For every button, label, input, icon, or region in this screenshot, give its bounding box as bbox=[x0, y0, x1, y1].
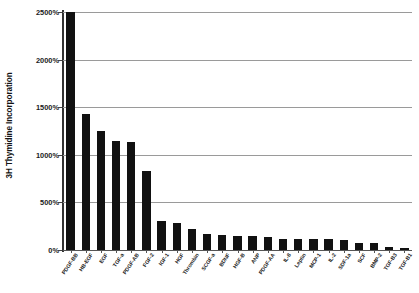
bar-slot bbox=[154, 12, 169, 250]
x-axis-tick-mark bbox=[101, 250, 102, 253]
bar bbox=[324, 239, 332, 250]
y-axis-tick-labels: 0%500%1000%1500%2000%2500% bbox=[16, 0, 62, 293]
bar-slot bbox=[230, 12, 245, 250]
bar-slot bbox=[382, 12, 397, 250]
bar-slot bbox=[215, 12, 230, 250]
bar bbox=[355, 243, 363, 250]
bar-slot bbox=[397, 12, 412, 250]
x-axis-tick-mark bbox=[86, 250, 87, 253]
bar bbox=[142, 171, 150, 250]
x-axis-tick-mark bbox=[298, 250, 299, 253]
x-axis-tick-mark bbox=[192, 250, 193, 253]
bar-slot bbox=[366, 12, 381, 250]
x-axis-tick-mark bbox=[71, 250, 72, 253]
bar-slot bbox=[351, 12, 366, 250]
bar-slot bbox=[78, 12, 93, 250]
bar bbox=[294, 239, 302, 250]
y-axis-tick-mark bbox=[58, 250, 62, 251]
x-axis-tick-mark bbox=[268, 250, 269, 253]
bar bbox=[233, 236, 241, 250]
bar bbox=[264, 237, 272, 250]
x-axis-tick-label: ANP bbox=[250, 252, 261, 265]
x-axis-tick-mark bbox=[344, 250, 345, 253]
y-axis-tick-label: 1000% bbox=[36, 150, 59, 159]
x-axis-tick-mark bbox=[162, 250, 163, 253]
x-axis-tick-label: SCF bbox=[356, 252, 367, 264]
bar bbox=[173, 223, 181, 250]
bar bbox=[82, 114, 90, 250]
x-axis-tick-mark bbox=[253, 250, 254, 253]
bar-slot bbox=[63, 12, 78, 250]
bar bbox=[66, 12, 74, 250]
x-axis-tick-label: HB-EGF bbox=[78, 252, 94, 272]
y-axis-tick-label: 1500% bbox=[36, 103, 59, 112]
x-axis-tick-label: SDF-1a bbox=[337, 252, 352, 271]
bar bbox=[203, 234, 211, 250]
x-axis-tick-label: IL-2 bbox=[327, 252, 337, 263]
bar-slot bbox=[336, 12, 351, 250]
x-axis-tick-mark bbox=[359, 250, 360, 253]
bar-slot bbox=[200, 12, 215, 250]
x-axis-tick-mark bbox=[222, 250, 223, 253]
bar bbox=[188, 229, 196, 250]
bar-slot bbox=[260, 12, 275, 250]
bar bbox=[112, 141, 120, 250]
bar bbox=[370, 243, 378, 250]
x-axis-tick-label: FGF-2 bbox=[141, 252, 155, 268]
x-axis-tick-mark bbox=[146, 250, 147, 253]
x-axis-tick-mark bbox=[389, 250, 390, 253]
plot-area bbox=[63, 12, 412, 250]
x-axis-tick-label: EGF bbox=[98, 252, 109, 264]
bar bbox=[157, 221, 165, 250]
y-axis-tick-mark bbox=[58, 107, 62, 108]
x-axis-tick-mark bbox=[283, 250, 284, 253]
x-axis-tick-mark bbox=[374, 250, 375, 253]
x-axis-tick-label: BDNF bbox=[218, 252, 231, 268]
bar bbox=[309, 239, 317, 250]
bar bbox=[340, 240, 348, 250]
y-axis-tick-mark bbox=[58, 202, 62, 203]
y-axis-title-text: 3H Thymidine Incorporation bbox=[5, 72, 14, 178]
x-axis-tick-mark bbox=[116, 250, 117, 253]
y-axis-tick-label: 2000% bbox=[36, 55, 59, 64]
x-axis-tick-label: TGF-B3 bbox=[382, 252, 398, 271]
bar-slot bbox=[275, 12, 290, 250]
x-axis-tick-label: Leptin bbox=[293, 252, 307, 269]
bar-slot bbox=[306, 12, 321, 250]
bar-slot bbox=[245, 12, 260, 250]
bar-slot bbox=[169, 12, 184, 250]
x-axis-tick-label: MCP-1 bbox=[308, 252, 322, 269]
x-axis-tick-label: HGF-B bbox=[232, 252, 246, 269]
x-axis-tick-label: HGF bbox=[174, 252, 185, 265]
bar bbox=[218, 235, 226, 250]
x-axis-tick-mark bbox=[238, 250, 239, 253]
x-axis-tick-label: IGF-1 bbox=[158, 252, 171, 267]
x-axis-tick-label: TGF-a bbox=[111, 252, 125, 268]
x-axis-tick-label: IL-8 bbox=[281, 252, 291, 263]
x-axis-tick-label: BMP-2 bbox=[368, 252, 382, 269]
bar-slot bbox=[93, 12, 108, 250]
y-axis-tick-mark bbox=[58, 155, 62, 156]
bar-slot bbox=[291, 12, 306, 250]
x-axis-tick-label: TGF-B1 bbox=[397, 252, 413, 271]
bar-slot bbox=[124, 12, 139, 250]
x-axis-tick-mark bbox=[404, 250, 405, 253]
x-axis-tick-mark bbox=[313, 250, 314, 253]
x-axis-tick-mark bbox=[131, 250, 132, 253]
bar bbox=[248, 236, 256, 250]
bar bbox=[97, 131, 105, 250]
y-axis-tick-mark bbox=[58, 12, 62, 13]
x-axis-tick-mark bbox=[329, 250, 330, 253]
bar-series bbox=[63, 12, 412, 250]
bar-slot bbox=[109, 12, 124, 250]
y-axis-tick-label: 500% bbox=[40, 198, 59, 207]
x-axis-tick-mark bbox=[207, 250, 208, 253]
y-axis-tick-label: 2500% bbox=[36, 8, 59, 17]
x-axis-tick-labels: PDGF-BBHB-EGFEGFTGF-aPDGF-ABFGF-2IGF-1HG… bbox=[63, 250, 412, 293]
bar bbox=[127, 142, 135, 250]
chart-figure: 3H Thymidine Incorporation 0%500%1000%15… bbox=[0, 0, 419, 293]
y-axis-tick-mark bbox=[58, 60, 62, 61]
x-axis-tick-label: SCGF-a bbox=[200, 252, 216, 271]
bar-slot bbox=[139, 12, 154, 250]
bar-slot bbox=[321, 12, 336, 250]
